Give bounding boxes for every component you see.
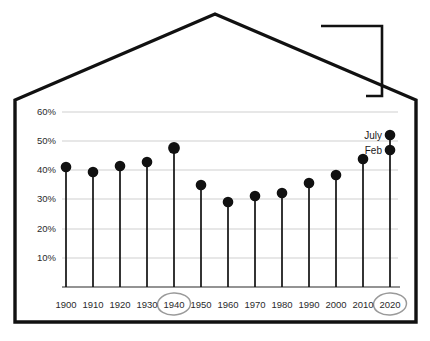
x-tick-label-1930: 1930 [136,299,157,310]
x-tick-label-1990: 1990 [298,299,319,310]
chart-text-layer: 60% 50% 40% 30% 20% 10% 1900 1910 1920 1… [0,0,430,341]
annotation-feb: Feb [365,145,383,156]
x-tick-label-2000: 2000 [325,299,346,310]
x-tick-label-1950: 1950 [190,299,211,310]
x-tick-label-1940: 1940 [163,299,184,310]
x-tick-label-2010: 2010 [352,299,373,310]
y-tick-label-20: 20% [37,223,57,234]
annotation-july: July [364,130,382,141]
x-tick-label-1960: 1960 [217,299,238,310]
x-tick-label-1920: 1920 [109,299,130,310]
y-tick-label-50: 50% [37,135,57,146]
y-tick-label-60: 60% [37,106,57,117]
x-tick-label-1970: 1970 [244,299,265,310]
x-tick-label-1980: 1980 [271,299,292,310]
chart-canvas: 60% 50% 40% 30% 20% 10% 1900 1910 1920 1… [0,0,430,341]
x-tick-label-1910: 1910 [82,299,103,310]
y-tick-label-10: 10% [37,252,57,263]
x-tick-label-2020: 2020 [379,299,400,310]
y-tick-label-40: 40% [37,164,57,175]
y-tick-label-30: 30% [37,193,57,204]
x-tick-label-1900: 1900 [55,299,76,310]
